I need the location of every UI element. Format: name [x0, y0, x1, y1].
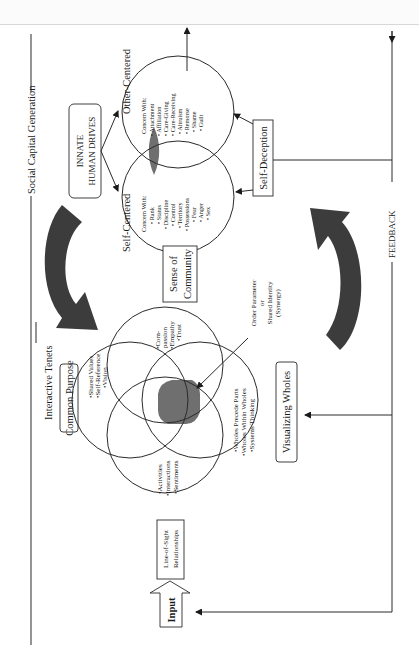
- svg-text:• Territory: • Territory: [176, 202, 183, 228]
- svg-text:• Status: • Status: [155, 205, 162, 224]
- diagram-stage: Social Capital Generation FEEDBACK INNAT…: [0, 0, 419, 659]
- svg-text:• Shame: • Shame: [190, 111, 197, 132]
- self-deception-box: Self-Deception: [234, 114, 273, 196]
- svg-text:Visualizing Wholes: Visualizing Wholes: [281, 371, 292, 453]
- svg-text:• Discipline: • Discipline: [162, 200, 169, 229]
- common-purpose-box: Common Purpose: [60, 360, 78, 436]
- svg-text:Concern With:: Concern With:: [140, 195, 147, 232]
- innate-title-line2: HUMAN DRIVES: [87, 117, 97, 186]
- interactive-tenets-title: Interactive Tenets: [43, 345, 54, 420]
- svg-text:•Sentiments: •Sentiments: [172, 460, 180, 494]
- arrow-to-self-centered: [101, 151, 118, 191]
- sense-of-community-box: Sense of Community: [163, 246, 197, 302]
- innate-title-line1: INNATE: [75, 134, 85, 167]
- curved-arrow-left: [45, 205, 98, 330]
- svg-text:• Altruism: • Altruism: [176, 108, 183, 134]
- feedback-label: FEEDBACK: [387, 210, 397, 258]
- tenets-venn: •Shared Values •Self-Reference •Vision •…: [72, 307, 258, 496]
- svg-text:or: or: [258, 299, 266, 306]
- other-centered-label: Other-Centered: [121, 48, 132, 114]
- svg-text:• Remorse: • Remorse: [183, 108, 190, 134]
- svg-text:Concern With:: Concern With:: [140, 97, 147, 134]
- svg-text:Order Parameter: Order Parameter: [250, 279, 258, 326]
- self-centered-circle: [122, 141, 234, 253]
- svg-text:Sense of: Sense of: [168, 256, 179, 292]
- svg-text:•Activities: •Activities: [156, 464, 164, 494]
- svg-text:• Fear: • Fear: [190, 207, 197, 222]
- svg-text:•Trust: •Trust: [175, 324, 183, 341]
- svg-text:• Possessions: • Possessions: [183, 197, 190, 231]
- curved-arrow-right: [310, 208, 361, 350]
- visualizing-wholes-box: Visualizing Wholes: [276, 362, 297, 462]
- drives-venn: Self-Centered Other-Centered Concern Wit…: [121, 48, 234, 253]
- order-parameter-annotation: Order Parameter or Shared Identity (Syne…: [197, 279, 282, 388]
- svg-text:• Attachment: • Attachment: [148, 103, 155, 136]
- svg-text:• Affiliation: • Affiliation: [155, 107, 162, 136]
- svg-text:• Care-Receiving: • Care-Receiving: [169, 93, 176, 136]
- svg-text:•Wholes Within Wholes: •Wholes Within Wholes: [240, 388, 248, 456]
- svg-text:Self-Deception: Self-Deception: [258, 125, 269, 189]
- innate-human-drives-box: INNATE HUMAN DRIVES: [69, 104, 118, 198]
- svg-text:• Control: • Control: [169, 203, 176, 226]
- social-capital-diagram: Social Capital Generation FEEDBACK INNAT…: [0, 0, 419, 659]
- svg-text:Common Purpose: Common Purpose: [64, 360, 75, 436]
- svg-text:•Interactions: •Interactions: [164, 460, 172, 496]
- social-capital-frame: Social Capital Generation: [26, 34, 37, 645]
- input-arrow: Input: [150, 581, 190, 627]
- svg-text:• Anger: • Anger: [197, 203, 204, 222]
- svg-text:Line-of-Sight: Line-of-Sight: [162, 530, 170, 568]
- self-deception-to-self-arrow: [236, 190, 253, 192]
- svg-text:Relationships: Relationships: [172, 530, 180, 568]
- line-of-sight-box: Line-of-Sight Relationships: [157, 520, 184, 579]
- arrow-to-other-centered: [101, 111, 118, 151]
- self-deception-to-other-arrow: [234, 114, 253, 124]
- self-centered-label: Self-Centered: [121, 193, 132, 252]
- svg-text:Community: Community: [182, 248, 193, 299]
- svg-text:• Care-Giving: • Care-Giving: [162, 101, 169, 136]
- self-centered-list: Concern With: • Rank • Status • Discipli…: [140, 195, 211, 232]
- order-parameter-arrow: [197, 338, 248, 388]
- svg-text:•Vision: •Vision: [101, 367, 109, 388]
- svg-text:(Synergy): (Synergy): [274, 288, 282, 317]
- feedback-frame: FEEDBACK: [196, 31, 397, 612]
- order-parameter-shade: [158, 380, 200, 424]
- svg-text:• Guilt: • Guilt: [197, 114, 204, 131]
- svg-text:Shared Identity: Shared Identity: [266, 281, 274, 324]
- svg-text:•Wholes Precede Parts: •Wholes Precede Parts: [232, 388, 240, 452]
- input-label: Input: [166, 597, 177, 623]
- svg-text:• Rank: • Rank: [148, 206, 155, 224]
- svg-text:• Sex: • Sex: [204, 206, 211, 220]
- social-capital-label: Social Capital Generation: [26, 85, 37, 194]
- other-centered-list: Concern With: • Attachment • Affiliation…: [140, 93, 204, 136]
- svg-text:•Systems Thinking: •Systems Thinking: [248, 398, 256, 452]
